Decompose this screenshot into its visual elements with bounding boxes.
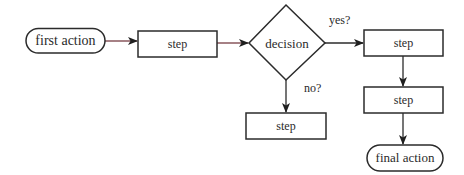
node-final-action: final action	[367, 145, 443, 171]
node-label: step	[276, 119, 295, 133]
node-step-no: step	[246, 113, 326, 139]
node-step-yes-2: step	[364, 87, 443, 113]
node-step-yes: step	[364, 30, 443, 56]
node-label: step	[394, 93, 413, 107]
node-label: final action	[376, 150, 435, 165]
node-label: first action	[35, 33, 95, 48]
node-label: step	[394, 36, 413, 50]
node-label: step	[168, 37, 187, 51]
node-decision: decision	[249, 5, 325, 80]
edge-label-yes: yes?	[329, 13, 350, 27]
node-label: decision	[265, 36, 309, 51]
node-first-action: first action	[26, 29, 105, 54]
node-step-1: step	[138, 31, 217, 57]
flowchart-diagram: yes? no? first action step decision step…	[0, 0, 464, 175]
edge-label-no: no?	[304, 81, 321, 95]
